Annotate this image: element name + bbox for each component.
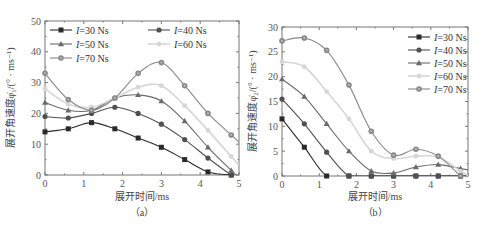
y-axis-title: 展开角速度φ̇₁/(° · ms⁻¹) [4,48,17,149]
x-tick-label: 4 [428,179,433,190]
legend-label: I=60 Ns [173,39,207,50]
x-tick-label: 3 [159,178,164,189]
legend: I=30 NsI=40 NsI=50 NsI=60 NsI=70 Ns [50,25,207,64]
x-axis-title: 展开时间/ms [348,190,403,202]
x-tick-label: 0 [280,179,285,190]
subfigure-caption: （a） [130,207,154,218]
legend-label: I=70 Ns [75,53,109,64]
legend-label: I=50 Ns [75,39,109,50]
x-tick-label: 4 [198,178,203,189]
y-tick-label: 10 [31,139,41,150]
chart-a: 01234501020304050I=30 NsI=40 NsI=50 NsI=… [4,16,242,219]
x-tick-label: 1 [317,179,322,190]
legend-label: I=40 Ns [433,45,467,56]
x-tick-label: 5 [466,179,471,190]
x-tick-label: 3 [391,179,396,190]
x-tick-label: 5 [237,178,242,189]
x-tick-label: 0 [43,178,48,189]
legend-label: I=60 Ns [433,71,467,82]
legend: I=30 NsI=40 NsI=50 NsI=60 NsI=70 Ns [408,32,467,95]
legend-label: I=40 Ns [173,25,207,36]
y-tick-label: 15 [268,96,278,107]
y-tick-label: 20 [268,71,278,82]
x-tick-label: 1 [81,178,86,189]
chart-b: 012345051015202530I=30 NsI=40 NsI=50 NsI… [246,22,471,219]
x-tick-label: 2 [354,179,359,190]
y-tick-label: 20 [31,108,41,119]
subfigure-caption: （b） [363,207,388,218]
y-tick-label: 30 [268,22,278,33]
y-tick-label: 25 [268,46,278,57]
figure: 01234501020304050I=30 NsI=40 NsI=50 NsI=… [0,0,485,232]
y-tick-label: 40 [31,46,41,57]
legend-label: I=30 Ns [75,25,109,36]
y-axis-title: 展开角速度φ̇₂/(° · ms⁻¹) [246,51,259,152]
y-tick-label: 0 [36,170,41,181]
legend-label: I=70 Ns [433,84,467,95]
chart-canvas: 01234501020304050I=30 NsI=40 NsI=50 NsI=… [0,0,485,232]
legend-label: I=30 Ns [433,32,467,43]
y-tick-label: 5 [273,146,278,157]
y-tick-label: 30 [31,77,41,88]
x-axis-title: 展开时间/ms [115,190,170,202]
x-tick-label: 2 [120,178,125,189]
y-tick-label: 0 [273,171,278,182]
legend-label: I=50 Ns [433,58,467,69]
plot-frame [45,21,239,175]
y-tick-label: 50 [31,16,41,27]
y-tick-label: 10 [268,121,278,132]
series-i-30-ns [280,116,469,178]
